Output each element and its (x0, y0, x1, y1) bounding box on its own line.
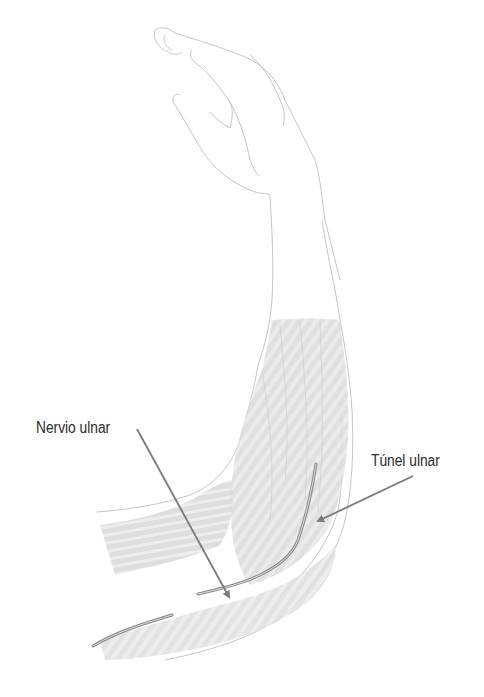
forearm-muscles (231, 319, 349, 586)
tunel-ulnar-label: Túnel ulnar (371, 452, 440, 470)
hand-outline (154, 28, 340, 365)
upper-arm-muscles (100, 480, 233, 575)
nervio-ulnar-label: Nervio ulnar (36, 419, 110, 437)
anatomy-illustration (0, 0, 484, 697)
